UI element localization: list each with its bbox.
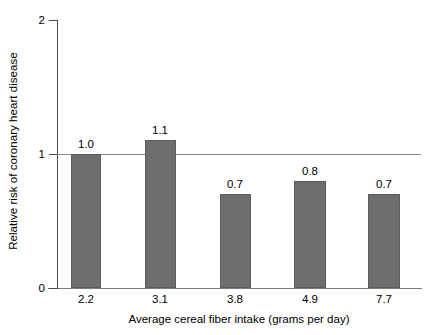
x-axis-title: Average cereal fiber intake (grams per d… — [57, 312, 421, 326]
y-axis-title: Relative risk of coronary heart disease — [2, 7, 24, 295]
bar-5 — [368, 194, 400, 288]
y-tick-label-2: 2 — [29, 14, 45, 26]
x-axis-line — [48, 288, 422, 289]
bar-2 — [145, 140, 176, 288]
x-tick-label-5: 7.7 — [362, 292, 406, 306]
bar-value-label-5: 0.7 — [364, 178, 404, 191]
bar-1 — [71, 154, 101, 288]
bar-value-label-4: 0.8 — [290, 165, 330, 178]
bar-4 — [294, 181, 326, 288]
x-tick-label-3: 3.8 — [213, 292, 257, 306]
x-tick-label-4: 4.9 — [288, 292, 332, 306]
bar-value-label-3: 0.7 — [215, 178, 255, 191]
x-tick-label-1: 2.2 — [64, 292, 108, 306]
bar-3 — [220, 194, 251, 288]
y-tick-label-1: 1 — [29, 148, 45, 160]
y-tick-label-0: 0 — [29, 282, 45, 294]
y-tick-mark-0 — [49, 288, 58, 289]
bar-value-label-1: 1.0 — [66, 138, 106, 151]
bar-value-label-2: 1.1 — [140, 124, 180, 137]
x-tick-label-2: 3.1 — [138, 292, 182, 306]
reference-line-at-one — [57, 154, 421, 155]
y-tick-mark-2 — [49, 20, 58, 21]
bar-chart: Relative risk of coronary heart disease … — [0, 0, 426, 335]
